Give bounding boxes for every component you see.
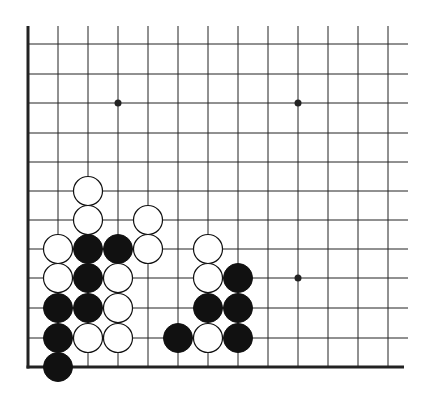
black-stone [164,324,193,353]
black-stone [44,324,73,353]
white-stone [104,264,133,293]
white-stone [194,264,223,293]
white-stone [74,177,103,206]
white-stone [134,235,163,264]
white-stone [104,324,133,353]
black-stone [194,294,223,323]
star-point [115,100,122,107]
white-stone [44,235,73,264]
go-board [0,0,429,405]
black-stone [44,353,73,382]
black-stone [74,235,103,264]
white-stone [74,206,103,235]
white-stone [74,324,103,353]
black-stone [224,324,253,353]
black-stone [44,294,73,323]
white-stone [134,206,163,235]
white-stone [194,235,223,264]
white-stone [104,294,133,323]
black-stone [104,235,133,264]
black-stone [74,294,103,323]
star-point [295,100,302,107]
black-stone [224,264,253,293]
star-point [295,275,302,282]
black-stone [74,264,103,293]
black-stone [224,294,253,323]
white-stone [44,264,73,293]
white-stone [194,324,223,353]
